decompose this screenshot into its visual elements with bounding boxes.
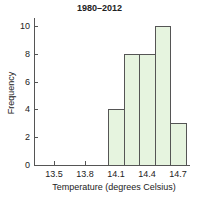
- x-tick: [85, 161, 86, 165]
- y-tick: [34, 109, 38, 110]
- y-tick: [34, 54, 38, 55]
- y-tick: [34, 26, 38, 27]
- histogram-bar: [108, 109, 125, 166]
- x-tick-label: 13.5: [39, 169, 69, 179]
- histogram-bar: [170, 123, 187, 166]
- y-tick-label: 4: [8, 105, 30, 114]
- x-tick-label: 13.8: [70, 169, 100, 179]
- x-tick-label: 14.4: [132, 169, 162, 179]
- y-tick-label: 2: [8, 133, 30, 142]
- x-tick-label: 14.1: [101, 169, 131, 179]
- y-tick-label: 6: [8, 78, 30, 87]
- y-axis: [34, 18, 35, 166]
- y-tick-label: 10: [8, 22, 30, 31]
- histogram-bar: [155, 26, 172, 166]
- x-axis-title: Temperature (degrees Celsius): [30, 182, 198, 192]
- x-tick: [54, 161, 55, 165]
- chart-title: 1980–2012: [0, 3, 199, 13]
- y-tick: [34, 165, 38, 166]
- y-tick: [34, 82, 38, 83]
- y-tick-label: 8: [8, 50, 30, 59]
- x-tick-label: 14.7: [163, 169, 193, 179]
- histogram-bar: [124, 54, 141, 166]
- y-tick-label: 0: [8, 161, 30, 170]
- histogram-bar: [139, 54, 156, 166]
- y-tick: [34, 137, 38, 138]
